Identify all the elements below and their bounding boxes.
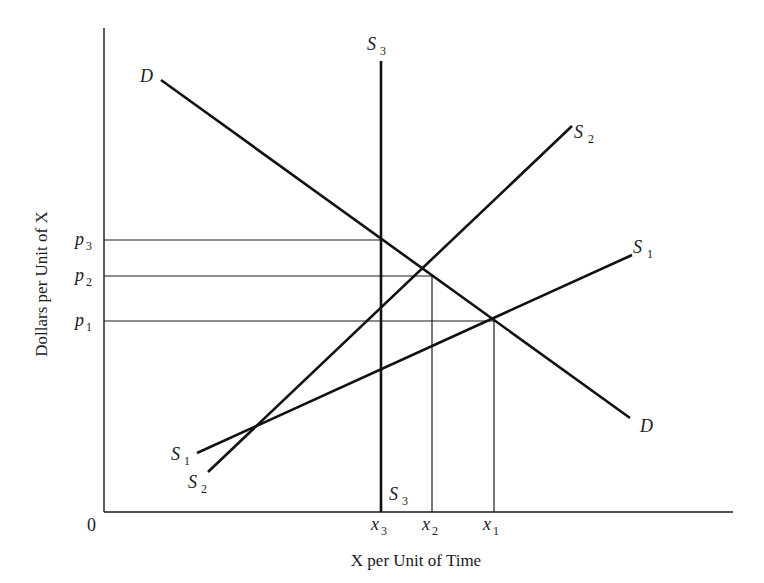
x-axis-title: X per Unit of Time [351,551,481,570]
tick-label-p2: p 2 [73,265,92,289]
svg-text:2: 2 [432,524,438,538]
curve-s2 [208,126,572,472]
svg-text:p: p [73,229,84,249]
origin-label: 0 [87,515,96,535]
label-s2-bottom: S 2 [188,472,207,496]
label-s3-bottom: S 3 [389,484,408,508]
tick-label-p1: p 1 [73,310,92,334]
svg-text:3: 3 [380,44,386,58]
svg-text:S: S [574,122,583,142]
svg-text:3: 3 [402,494,408,508]
svg-text:1: 1 [647,247,653,261]
supply-demand-diagram: D D S 3 S 3 S 2 S 2 S 1 S 1 p 3 p 2 p 1 … [0,0,764,583]
svg-text:2: 2 [588,132,594,146]
label-s3-top: S 3 [367,34,386,58]
svg-text:S: S [188,472,197,492]
curve-s1 [197,255,632,453]
svg-text:p: p [73,265,84,285]
svg-text:3: 3 [86,239,92,253]
svg-text:3: 3 [381,524,387,538]
curve-d [161,80,630,418]
svg-text:2: 2 [86,275,92,289]
label-s1-bottom: S 1 [171,444,190,468]
svg-text:1: 1 [493,524,499,538]
svg-text:x: x [482,514,491,534]
tick-label-p3: p 3 [73,229,92,253]
tick-label-x1: x 1 [482,514,499,538]
svg-text:S: S [367,34,376,54]
tick-label-x3: x 3 [370,514,387,538]
svg-text:1: 1 [184,454,190,468]
tick-label-x2: x 2 [421,514,438,538]
label-s1-top: S 1 [633,237,653,261]
svg-text:S: S [389,484,398,504]
svg-text:S: S [171,444,180,464]
svg-text:x: x [421,514,430,534]
label-d-bottom: D [639,416,653,436]
label-d-top: D [139,66,153,86]
svg-text:p: p [73,310,84,330]
svg-text:x: x [370,514,379,534]
y-axis-title: Dollars per Unit of X [32,211,51,356]
label-s2-top: S 2 [574,122,594,146]
svg-text:1: 1 [86,320,92,334]
svg-text:S: S [633,237,642,257]
svg-text:2: 2 [201,482,207,496]
